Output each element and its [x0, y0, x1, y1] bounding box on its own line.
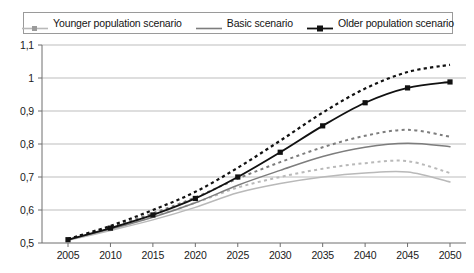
series-marker: [150, 212, 155, 217]
series-line: [68, 65, 450, 239]
y-axis-tick-label: 0,6: [20, 204, 34, 216]
x-axis-tick-label: 2015: [142, 249, 165, 261]
data-series-group: [65, 65, 452, 243]
series-marker: [193, 196, 198, 201]
x-axis-tick-label: 2040: [354, 249, 377, 261]
legend-swatch-older-icon: [307, 19, 333, 28]
series-marker: [278, 150, 283, 155]
x-axis-ticks: [68, 243, 450, 247]
y-axis-tick-label: 1,1: [20, 39, 34, 51]
x-axis-tick-label: 2020: [184, 249, 207, 261]
series-marker: [363, 100, 368, 105]
y-axis-tick-label: 0,7: [20, 171, 34, 183]
series-marker: [235, 174, 240, 179]
legend-swatch-basic-icon: [196, 19, 222, 28]
x-axis-tick-label: 2050: [439, 249, 462, 261]
y-axis-ticks: [38, 45, 42, 243]
legend-label-basic: Basic scenario: [227, 18, 293, 29]
legend-item-younger: Younger population scenario: [22, 18, 182, 29]
x-axis-tick-label: 2025: [226, 249, 249, 261]
x-axis-tick-labels: 2005201020152020202520302035204020452050: [57, 249, 462, 261]
y-axis-tick-label: 0,5: [20, 237, 34, 249]
chart-svg: 0,50,60,70,80,911,1 20052010201520202025…: [0, 36, 474, 273]
x-axis-tick-label: 2045: [396, 249, 419, 261]
legend-label-younger: Younger population scenario: [53, 18, 182, 29]
series-marker: [320, 123, 325, 128]
x-axis-tick-label: 2030: [269, 249, 292, 261]
series-marker: [405, 85, 410, 90]
gridlines: [42, 45, 466, 210]
legend-item-basic: Basic scenario: [196, 18, 293, 29]
series-line: [68, 143, 450, 239]
chart-figure: Younger population scenario Basic scenar…: [0, 0, 474, 273]
y-axis-tick-label: 0,8: [20, 138, 34, 150]
legend-item-older: Older population scenario: [307, 18, 454, 29]
y-axis-tick-label: 0,9: [20, 105, 34, 117]
chart-legend: Younger population scenario Basic scenar…: [23, 12, 453, 34]
series-marker: [447, 79, 452, 84]
y-axis-tick-labels: 0,50,60,70,80,911,1: [20, 39, 34, 249]
x-axis-tick-label: 2005: [57, 249, 80, 261]
series-line: [68, 161, 450, 240]
y-axis-tick-label: 1: [28, 72, 34, 84]
x-axis-tick-label: 2035: [311, 249, 334, 261]
series-line: [68, 130, 450, 239]
legend-swatch-younger-icon: [22, 19, 48, 28]
chart-plot-area: 0,50,60,70,80,911,1 20052010201520202025…: [0, 36, 474, 273]
legend-label-older: Older population scenario: [338, 18, 454, 29]
x-axis-tick-label: 2010: [99, 249, 122, 261]
